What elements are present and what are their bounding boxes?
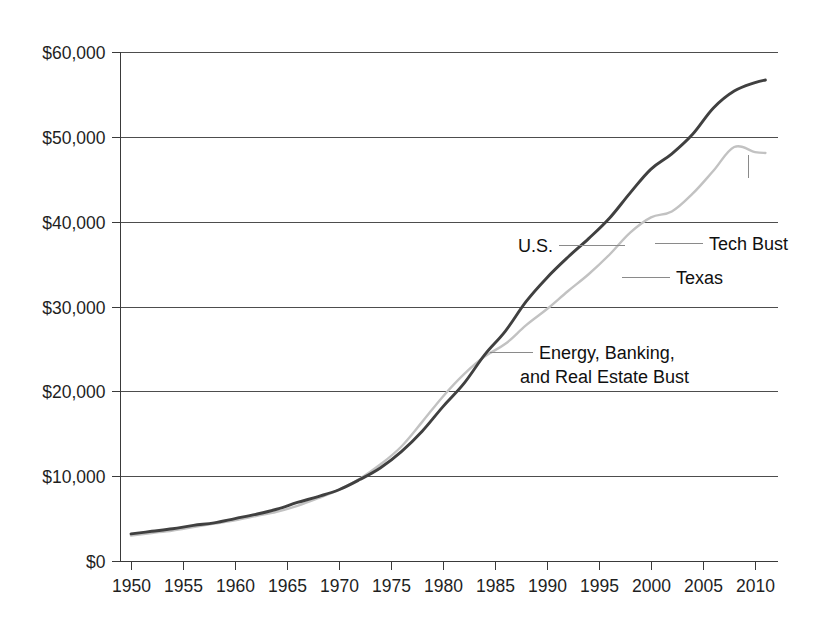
x-tick-label: 2000	[632, 576, 671, 596]
x-tick-labels: 1950195519601965197019751980198519901995…	[112, 576, 775, 596]
x-tick-label: 1980	[424, 576, 463, 596]
y-tick-labels: $0$10,000$20,000$30,000$40,000$50,000$60…	[42, 43, 106, 572]
gridlines	[121, 53, 779, 477]
x-tick-label: 1975	[372, 576, 411, 596]
annotations: U.S. Texas Tech Bust Energy, Banking, an…	[490, 155, 788, 387]
x-tick-label: 1950	[112, 576, 151, 596]
y-tick-label: $0	[86, 552, 106, 572]
y-tick-label: $30,000	[42, 298, 106, 318]
series-line-texas	[131, 146, 765, 535]
annotation-label-us: U.S.	[518, 236, 553, 256]
line-chart: $0$10,000$20,000$30,000$40,000$50,000$60…	[0, 0, 832, 621]
annotation-label-energy-banking-line2: and Real Estate Bust	[520, 367, 689, 387]
y-tick-label: $60,000	[42, 43, 106, 63]
x-tick-label: 1970	[320, 576, 359, 596]
annotation-tech-bust: Tech Bust	[655, 234, 788, 254]
annotation-texas: Texas	[622, 268, 723, 288]
x-tick-label: 2005	[684, 576, 723, 596]
x-tick-label: 1955	[164, 576, 203, 596]
annotation-label-tech-bust: Tech Bust	[709, 234, 788, 254]
y-tick-label: $20,000	[42, 382, 106, 402]
x-tick-label: 1990	[528, 576, 567, 596]
annotation-label-texas: Texas	[676, 268, 723, 288]
x-tick-label: 1995	[580, 576, 619, 596]
x-tick-label: 2010	[736, 576, 775, 596]
annotation-label-energy-banking-line1: Energy, Banking,	[539, 343, 675, 363]
x-tick-label: 1965	[268, 576, 307, 596]
y-axis	[112, 52, 121, 562]
x-tick-label: 1960	[216, 576, 255, 596]
y-tick-label: $40,000	[42, 213, 106, 233]
x-axis	[121, 561, 779, 570]
annotation-energy-banking: Energy, Banking, and Real Estate Bust	[490, 343, 689, 387]
chart-container: $0$10,000$20,000$30,000$40,000$50,000$60…	[0, 0, 832, 621]
y-tick-label: $10,000	[42, 467, 106, 487]
y-tick-label: $50,000	[42, 128, 106, 148]
x-tick-label: 1985	[476, 576, 515, 596]
